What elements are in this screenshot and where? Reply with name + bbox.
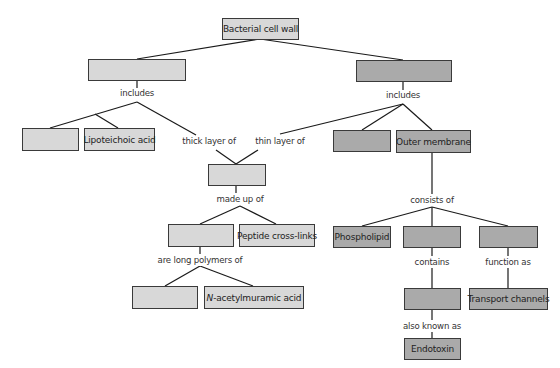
node-left-top-blank bbox=[88, 59, 186, 81]
node-sugar-blank bbox=[132, 286, 198, 309]
link-label-contains: contains bbox=[414, 257, 451, 268]
connector-lines bbox=[0, 0, 560, 368]
node-om-blank-2 bbox=[479, 226, 538, 248]
node-phospholipid: Phospholipid bbox=[333, 226, 391, 248]
link-label-function-as: function as bbox=[484, 257, 531, 268]
link-label-thin-layer: thin layer of bbox=[254, 136, 305, 147]
node-endotoxin: Endotoxin bbox=[404, 338, 461, 360]
link-label-consists-of: consists of bbox=[409, 195, 454, 206]
link-label-long-polymers: are long polymers of bbox=[157, 255, 244, 266]
node-right-blank-1 bbox=[333, 130, 391, 152]
node-om-blank-1 bbox=[403, 226, 461, 248]
link-label-thick-layer: thick layer of bbox=[181, 136, 236, 147]
node-lps-blank bbox=[404, 288, 461, 310]
node-polymer-blank bbox=[168, 224, 234, 247]
link-label-includes-right: includes bbox=[385, 90, 421, 101]
node-right-top-blank bbox=[356, 60, 452, 82]
node-outer-membrane: Outer membrane bbox=[396, 130, 471, 153]
node-left-blank-1 bbox=[22, 128, 79, 151]
nam-rest: -acetylmuramic acid bbox=[213, 293, 301, 303]
link-label-includes-left: includes bbox=[119, 88, 155, 99]
node-lipoteichoic-acid: Lipoteichoic acid bbox=[84, 128, 155, 151]
link-label-also-known-as: also known as bbox=[402, 321, 462, 332]
node-center-blank bbox=[208, 164, 266, 186]
node-bacterial-cell-wall: Bacterial cell wall bbox=[222, 18, 299, 40]
node-n-acetylmuramic-acid: N-acetylmuramic acid bbox=[204, 286, 304, 309]
link-label-made-up-of: made up of bbox=[215, 194, 264, 205]
node-transport-channels: Transport channels bbox=[469, 288, 548, 310]
node-peptide-cross-links: Peptide cross-links bbox=[239, 224, 315, 247]
